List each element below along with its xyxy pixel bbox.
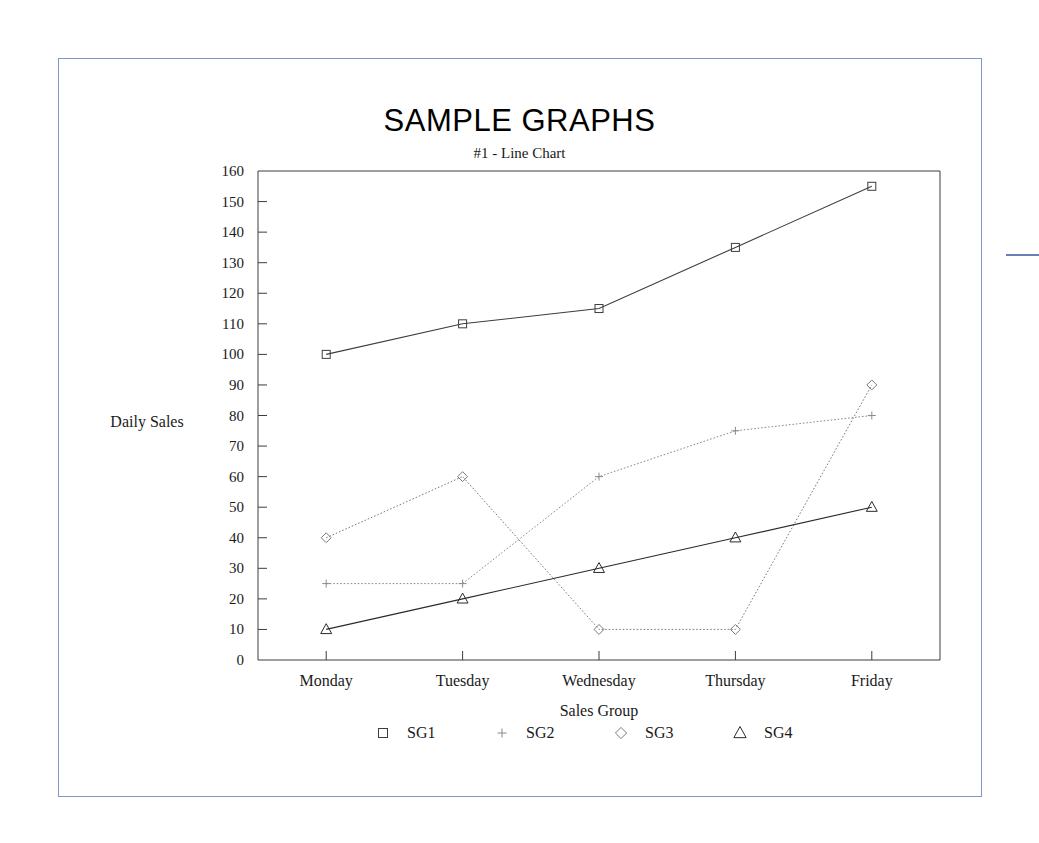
x-axis-ticks: MondayTuesdayWednesdayThursdayFriday [300, 651, 893, 690]
series-line [326, 507, 872, 629]
plot-area: 0102030405060708090100110120130140150160… [0, 0, 1039, 843]
y-tick-label: 10 [229, 621, 244, 637]
legend-label: SG4 [764, 724, 792, 741]
series-line [326, 416, 872, 584]
page-canvas: SAMPLE GRAPHS #1 - Line Chart Daily Sale… [0, 0, 1039, 843]
legend-item-sg3[interactable]: SG3 [615, 724, 673, 741]
y-tick-label: 160 [222, 163, 245, 179]
marker-plus [731, 427, 739, 435]
series-sg2 [322, 412, 876, 588]
y-tick-label: 90 [229, 377, 244, 393]
y-tick-label: 50 [229, 499, 244, 515]
y-tick-label: 20 [229, 591, 244, 607]
y-axis-ticks: 0102030405060708090100110120130140150160 [222, 163, 268, 668]
y-tick-label: 30 [229, 560, 244, 576]
marker-plus [868, 412, 876, 420]
line-chart-figure: SAMPLE GRAPHS #1 - Line Chart Daily Sale… [0, 0, 1039, 843]
data-series [321, 182, 878, 634]
legend-label: SG3 [645, 724, 673, 741]
series-sg4 [321, 501, 878, 633]
y-tick-label: 150 [222, 194, 245, 210]
y-tick-label: 60 [229, 469, 244, 485]
marker-plus [322, 580, 330, 588]
legend-item-sg2[interactable]: SG2 [498, 724, 555, 741]
y-tick-label: 70 [229, 438, 244, 454]
marker-square [868, 182, 876, 190]
series-line [326, 186, 872, 354]
series-line [326, 385, 872, 630]
marker-triangle [866, 501, 877, 511]
y-tick-label: 110 [222, 316, 244, 332]
legend-item-sg1[interactable]: SG1 [379, 724, 436, 741]
legend-label: SG2 [526, 724, 554, 741]
marker-plus [498, 729, 507, 738]
x-tick-label: Tuesday [436, 672, 490, 690]
chart-legend: SG1SG2SG3SG4 [379, 724, 793, 741]
marker-diamond [615, 727, 626, 738]
y-tick-label: 130 [222, 255, 245, 271]
y-tick-label: 40 [229, 530, 244, 546]
x-tick-label: Monday [300, 672, 353, 690]
y-tick-label: 100 [222, 346, 245, 362]
series-sg1 [322, 182, 876, 358]
y-tick-label: 0 [237, 652, 245, 668]
marker-triangle [734, 727, 746, 738]
x-tick-label: Friday [851, 672, 893, 690]
y-tick-label: 80 [229, 408, 244, 424]
y-tick-label: 120 [222, 285, 245, 301]
x-tick-label: Wednesday [562, 672, 635, 690]
series-sg3 [321, 380, 877, 634]
axes [258, 171, 940, 660]
marker-square [379, 729, 388, 738]
legend-label: SG1 [407, 724, 435, 741]
x-tick-label: Thursday [705, 672, 765, 690]
legend-item-sg4[interactable]: SG4 [734, 724, 793, 741]
y-tick-label: 140 [222, 224, 245, 240]
